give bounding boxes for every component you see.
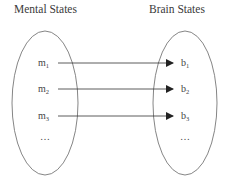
label-b1: b1 (181, 58, 189, 71)
brain-states-set (153, 31, 217, 175)
mental-states-set (12, 31, 78, 175)
label-m3: m3 (38, 111, 49, 124)
label-b-ellipsis: … (180, 132, 190, 142)
label-m-ellipsis: … (40, 132, 50, 142)
mapping-diagram (0, 0, 229, 184)
label-b2: b2 (181, 84, 189, 97)
label-b3: b3 (181, 111, 189, 124)
label-m1: m1 (38, 58, 49, 71)
label-m2: m2 (38, 84, 49, 97)
